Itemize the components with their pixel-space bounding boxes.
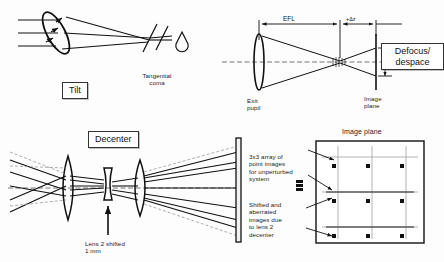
lens-2-decentered [104,168,112,200]
tilt-panel-graphics [18,8,188,57]
image-plane-panel-graphics [296,141,424,243]
defocus-image-plane-label: Image plane [364,95,382,110]
decenter-focal-plane [236,138,241,242]
exit-pupil-label: Exit pupil [247,97,261,112]
tangential-coma-label: Tangential coma [128,72,186,87]
tilt-converging-rays [62,17,172,49]
figure-canvas: Tangential coma Tilt EFL +Δz B Exit pupi… [0,0,444,262]
decenter-box-label: Decenter [88,131,139,148]
tilt-incoming-rays [18,20,60,46]
decenter-output-rays-gray [144,146,238,236]
decenter-output-rays [144,152,238,228]
defocus-box-label: Defocus/ despace [381,43,444,70]
decenter-panel-graphics [8,138,241,242]
unperturbed-array-note: 3x3 array of point images for unperturbe… [249,153,305,183]
coma-flare-blob [176,32,188,52]
defocus-panel-graphics [222,20,402,90]
tilt-box-label: Tilt [62,82,88,99]
efl-dimension-label: EFL [283,15,295,22]
delta-z-dimension-label: +Δz [346,16,355,22]
image-plane-title: Image plane [342,128,382,135]
shifted-images-note: Shifted and aberrated images due to lens… [249,201,305,238]
lens2-shift-note: Lens 2 shifted 1 mm [85,240,155,255]
